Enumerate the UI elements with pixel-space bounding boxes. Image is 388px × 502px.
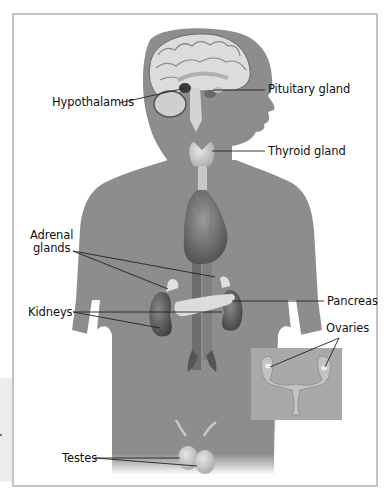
ovaries-inset xyxy=(251,348,342,420)
label-pancreas: Pancreas xyxy=(327,295,378,308)
label-hypothalamus: Hypothalamus xyxy=(52,96,134,109)
label-adrenal-line1: Adrenal xyxy=(30,228,73,242)
label-ovaries: Ovaries xyxy=(326,322,369,335)
label-adrenal-glands: Adrenalglands xyxy=(30,229,73,255)
label-adrenal-line2: glands xyxy=(33,241,71,255)
label-testes: Testes xyxy=(62,452,97,465)
label-thyroid-gland: Thyroid gland xyxy=(268,145,346,158)
label-pituitary-gland: Pituitary gland xyxy=(268,83,350,96)
label-kidneys: Kidneys xyxy=(28,306,73,319)
